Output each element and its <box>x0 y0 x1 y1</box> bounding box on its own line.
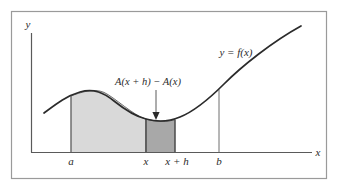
y-axis-label: y <box>25 18 31 30</box>
area-increment-label: A(x + h) − A(x) <box>114 76 181 88</box>
tick-label-x-plus-h: x + h <box>164 155 189 167</box>
tick-label-a: a <box>68 155 74 167</box>
x-axis-label: x <box>315 146 321 158</box>
figure-container: x y y = f(x) a x x + h b A(x + h) − A(x) <box>0 0 339 190</box>
tick-label-b: b <box>216 155 222 167</box>
curve-label: y = f(x) <box>218 46 252 59</box>
tick-label-x: x <box>143 155 149 167</box>
area-x-to-x-plus-h-region <box>146 119 175 152</box>
calculus-area-figure: x y y = f(x) a x x + h b A(x + h) − A(x) <box>0 0 339 190</box>
